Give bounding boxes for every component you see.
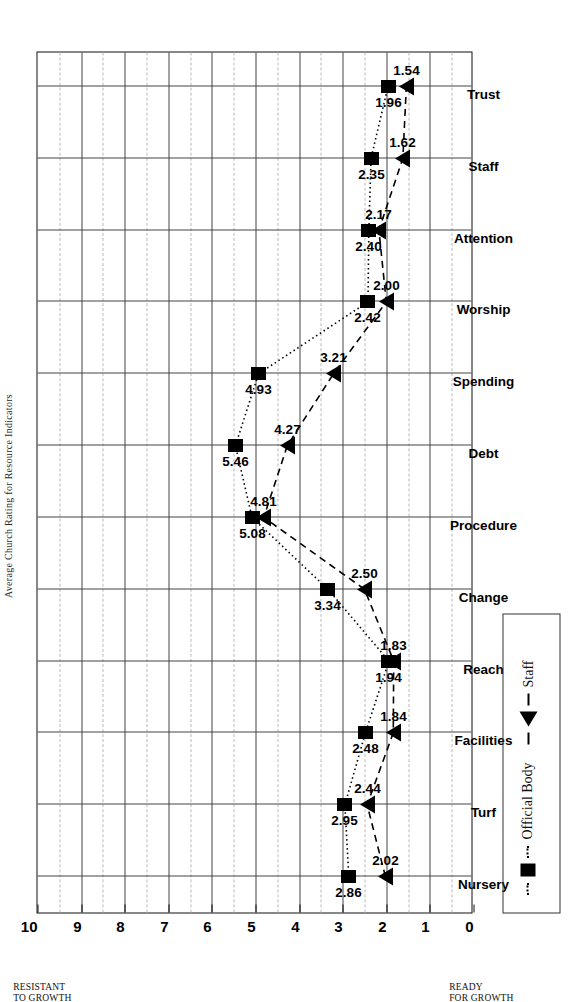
data-point-staff-facilities: [385, 723, 400, 741]
dashed-line-right: [527, 693, 529, 705]
dotted-line: [526, 882, 528, 894]
data-point-official-body-trust: [380, 79, 395, 92]
data-label-staff-staff: 1.62: [389, 134, 415, 149]
value-tick-label: 5: [247, 918, 255, 935]
data-label-staff-trust: 1.54: [393, 62, 419, 77]
data-point-official-body-staff: [363, 151, 378, 164]
data-label-official-body-worship: 2.42: [354, 310, 380, 325]
data-label-staff-reach: 1.83: [380, 637, 406, 652]
data-label-staff-attention: 2.17: [365, 206, 391, 221]
series-line-staff: [263, 86, 406, 876]
data-point-official-body-spending: [251, 367, 266, 380]
data-point-official-body-debt: [227, 439, 242, 452]
axis-caption-resistant: RESISTANT TO GROWTH: [13, 981, 71, 1002]
data-point-official-body-nursery: [341, 870, 356, 883]
square-marker: [520, 863, 535, 876]
data-point-staff-worship: [378, 292, 393, 310]
chart-title: Average Church Rating for Resource Indic…: [2, 0, 13, 991]
plot-area: 012345678910NurseryTurfFacilitiesReachCh…: [36, 51, 472, 913]
series-line-official-body: [235, 86, 388, 876]
data-point-official-body-facilities: [357, 726, 372, 739]
triangle-marker: [519, 711, 537, 726]
value-tick-label: 10: [20, 918, 37, 935]
data-label-official-body-nursery: 2.86: [335, 885, 361, 900]
axis-caption-ready: READY FOR GROWTH: [449, 981, 514, 1002]
data-label-official-body-trust: 1.96: [374, 94, 400, 109]
data-label-official-body-change: 3.34: [314, 597, 340, 612]
data-point-staff-spending: [326, 364, 341, 382]
value-tick-label: 9: [72, 918, 80, 935]
data-point-staff-procedure: [256, 508, 271, 526]
legend-entry-staff: Staff: [519, 660, 537, 744]
data-label-official-body-debt: 5.46: [222, 454, 248, 469]
dotted-line-right: [526, 845, 528, 857]
data-point-staff-staff: [395, 149, 410, 167]
data-point-staff-trust: [398, 77, 413, 95]
legend-label: Staff: [520, 660, 536, 687]
chart-legend: Official BodyStaff: [502, 613, 560, 913]
data-point-staff-nursery: [377, 867, 392, 885]
data-label-staff-turf: 2.44: [353, 781, 379, 796]
data-label-official-body-spending: 4.93: [245, 382, 271, 397]
legend-label: Official Body: [519, 762, 535, 839]
data-label-staff-nursery: 2.02: [372, 853, 398, 868]
data-point-official-body-worship: [360, 295, 375, 308]
legend-entry-official-body: Official Body: [519, 762, 535, 894]
data-label-staff-worship: 2.00: [373, 278, 399, 293]
data-point-official-body-change: [320, 582, 335, 595]
series-lines: [37, 50, 473, 912]
data-point-staff-attention: [371, 221, 386, 239]
data-point-staff-turf: [359, 795, 374, 813]
data-label-official-body-procedure: 5.08: [238, 525, 264, 540]
value-tick-label: 2: [377, 918, 385, 935]
value-tick-label: 3: [334, 918, 342, 935]
value-tick-label: 1: [421, 918, 429, 935]
value-tick-label: 6: [203, 918, 211, 935]
data-label-staff-debt: 4.27: [274, 422, 300, 437]
data-label-official-body-reach: 1.94: [375, 669, 401, 684]
data-point-staff-debt: [279, 436, 294, 454]
data-point-staff-reach: [386, 652, 401, 670]
data-label-official-body-attention: 2.40: [355, 238, 381, 253]
dashed-line: [527, 732, 529, 744]
category-label-turf: Turf: [470, 804, 495, 819]
data-point-staff-change: [357, 580, 372, 598]
data-label-official-body-staff: 2.35: [357, 166, 383, 181]
data-point-official-body-turf: [337, 798, 352, 811]
data-label-official-body-turf: 2.95: [331, 813, 357, 828]
data-label-staff-change: 2.50: [351, 565, 377, 580]
data-label-staff-procedure: 4.81: [250, 493, 276, 508]
value-tick-label: 0: [465, 918, 473, 935]
value-tick-label: 7: [159, 918, 167, 935]
data-label-staff-facilities: 1.84: [380, 709, 406, 724]
value-tick-label: 4: [290, 918, 298, 935]
data-label-staff-spending: 3.21: [320, 350, 346, 365]
value-tick-label: 8: [116, 918, 124, 935]
data-label-official-body-facilities: 2.48: [352, 741, 378, 756]
